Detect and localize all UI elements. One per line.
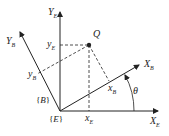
x-e-axis-label: XE [150, 116, 160, 128]
point-q [87, 43, 91, 47]
x-b-coord-label: xB [108, 83, 116, 95]
x-e-coord-label: xE [85, 113, 93, 125]
x-b-axis [60, 65, 139, 111]
y-b-coord-label: yB [28, 69, 36, 81]
point-q-label: Q [93, 29, 100, 39]
y-b-axis-label: YB [6, 36, 15, 48]
frame-b-label: {B} [36, 96, 50, 105]
frame-rotation-diagram: Q YE XE YB XB yE xE yB xB θ {B} {E} [0, 0, 169, 136]
x-b-axis-label: XB [144, 59, 154, 71]
y-e-coord-label: yE [47, 39, 55, 51]
frame-e-label: {E} [49, 115, 63, 124]
theta-label: θ [133, 86, 138, 96]
y-e-axis-label: YE [48, 7, 57, 19]
